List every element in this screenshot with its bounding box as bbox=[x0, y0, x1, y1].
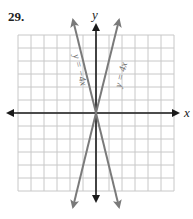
line-y-equals-4x bbox=[73, 113, 96, 207]
y-axis-label: y bbox=[90, 7, 98, 22]
coordinate-graph: x y y = 4x y = −4x bbox=[0, 0, 193, 219]
label-y-equals-neg-4x: y = −4x bbox=[71, 52, 90, 88]
line-y-equals-neg-4x bbox=[96, 113, 119, 207]
x-axis-label: x bbox=[183, 105, 190, 120]
line-y-equals-4x bbox=[96, 20, 119, 113]
label-y-equals-4x: y = 4x bbox=[112, 60, 129, 89]
